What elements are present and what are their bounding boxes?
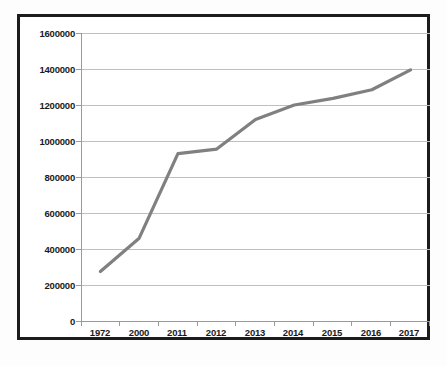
clipped-title-text — [195, 0, 235, 1]
series-polyline — [100, 70, 410, 272]
chart-page: 1600000 1400000 1200000 1000000 800000 6… — [0, 0, 447, 366]
chart-frame-border: 1600000 1400000 1200000 1000000 800000 6… — [17, 14, 430, 340]
chart-plot-wrapper: 1600000 1400000 1200000 1000000 800000 6… — [20, 17, 433, 343]
series-line-chart — [20, 17, 433, 343]
